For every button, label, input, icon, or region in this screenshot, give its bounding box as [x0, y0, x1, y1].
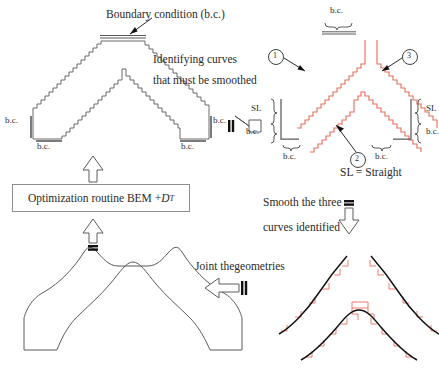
caption-identify-line1: Identifying curves: [153, 53, 237, 66]
identified-curves-red: [297, 40, 437, 152]
bracket-right-foot-label: b.c.: [375, 152, 388, 162]
arrow-up-to-box: [83, 219, 103, 251]
bracket-right-sl-label: SL: [426, 104, 437, 114]
optimization-label-subscript: T: [170, 194, 175, 203]
bracket-left-sl-label: SL: [251, 104, 262, 114]
boundary-condition-annotation: Boundary condition (b.c.): [106, 8, 225, 21]
marker-label-1: 1: [273, 52, 277, 61]
bracket-group-left: [271, 99, 300, 151]
marker-label-3: 3: [407, 52, 411, 61]
optimization-routine-box: Optimization routine BEM + DT: [12, 184, 190, 212]
caption-smooth-line1: Smooth the three: [263, 196, 342, 209]
bc-support-marks-top-left: [31, 116, 211, 141]
bc-label-left-foot: b.c.: [37, 142, 50, 152]
caption-identify-line2: that must be smoothed: [153, 74, 257, 87]
sl-legend: SL = Straight: [340, 166, 402, 179]
curve-marker-leaders: [284, 58, 402, 152]
optimization-label-prefix: Optimization routine BEM +: [28, 192, 161, 204]
top-bc-label: b.c.: [330, 6, 343, 16]
bc-label-left-side: b.c.: [5, 116, 18, 126]
bracket-left-bc-label: b.c.: [246, 127, 259, 137]
caption-smooth-line2: curves identified: [263, 221, 340, 234]
bracket-right-bc-label: b.c.: [426, 127, 439, 137]
bracket-left-foot-label: b.c.: [283, 152, 296, 162]
caption-joint-geometries: Joint thegeometries: [195, 260, 285, 273]
optimization-label-symbol: D: [161, 192, 169, 204]
marker-label-2: 2: [355, 155, 359, 164]
stepped-arch-geometry: [33, 36, 209, 140]
bc-label-right-side: b.c.: [213, 116, 226, 126]
top-bc-brace: [322, 23, 356, 34]
bc-label-right-foot: b.c.: [181, 142, 194, 152]
arrow-down-smooth: [339, 200, 359, 234]
figure-canvas: Boundary condition (b.c.) b.c. b.c. b.c.…: [0, 0, 439, 371]
residual-red-steps: [281, 260, 437, 357]
